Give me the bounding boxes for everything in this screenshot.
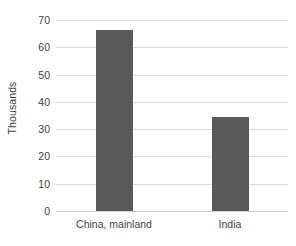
gridline [56, 102, 288, 103]
plot-area [56, 20, 288, 211]
y-axis-tick-label: 70 [4, 15, 50, 26]
gridline [56, 47, 288, 48]
x-axis-category-label: India [219, 218, 242, 230]
gridline [56, 20, 288, 21]
gridline [56, 211, 288, 212]
y-axis-tick-label: 40 [4, 97, 50, 108]
y-axis-tick-labels: 010203040506070 [0, 20, 50, 211]
bar-chart: Thousands 010203040506070 China, mainlan… [0, 0, 296, 246]
bar [96, 30, 133, 211]
y-axis-tick-label: 60 [4, 42, 50, 53]
y-axis-tick-label: 0 [4, 206, 50, 217]
x-axis-category-label: China, mainland [76, 218, 152, 230]
gridline [56, 184, 288, 185]
bar [212, 117, 249, 211]
x-axis-category-labels: China, mainlandIndia [56, 218, 288, 238]
gridline [56, 129, 288, 130]
y-axis-tick-label: 30 [4, 124, 50, 135]
gridline [56, 75, 288, 76]
y-axis-tick-label: 50 [4, 69, 50, 80]
y-axis-tick-label: 20 [4, 151, 50, 162]
gridline [56, 156, 288, 157]
y-axis-tick-label: 10 [4, 178, 50, 189]
